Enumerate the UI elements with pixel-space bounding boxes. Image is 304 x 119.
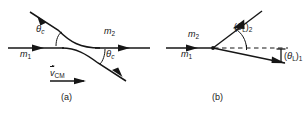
angle-arc-lower-a [100,49,105,64]
label-m1-panel-b: m1 [181,50,192,61]
label-vcm-panel-a: vCM [50,69,65,80]
label-m2-panel-a: m2 [104,27,115,38]
lower-trajectory-a [62,48,126,81]
label-theta-L-1-panel-b: (θL)1 [284,51,302,63]
label-theta-L-2-panel-b: (θL)2 [234,22,252,34]
caption-panel-a: (a) [61,93,72,102]
vector-overbar-icon [50,66,54,67]
vcm-arrowhead-a [74,78,86,84]
label-m1-panel-a: m1 [20,50,31,61]
panel-a-graphics [8,12,150,84]
physics-figure: m1 m2 θc θc vCM (a) m1 m2 (θL)2 (θL)1 (b… [0,0,304,119]
label-m2-panel-b: m2 [188,30,199,41]
label-theta-c-upper-panel-a: θc [36,24,44,36]
m2-arrowhead-a [118,45,130,52]
m1-arrowhead-a [32,45,44,52]
label-theta-c-lower-panel-a: θc [106,49,114,61]
angle-arc-upper-a [56,32,62,46]
caption-panel-b: (b) [212,93,223,102]
figure-canvas [0,0,304,119]
